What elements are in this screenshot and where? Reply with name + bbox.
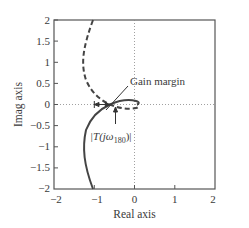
nyquist-chart: 2 1.5 1 0.5 0 −0.5 −1 −1.5 −2 −2 −1 0 1 … [0,0,249,228]
x-tick-label: 0 [132,193,138,205]
x-tick-label: −1 [91,193,103,205]
y-tick-label: −0.5 [30,119,50,131]
y-tick-label: −1.5 [30,161,50,173]
y-tick-label: 0.5 [36,77,50,89]
gain-margin-leader-line [106,86,128,110]
y-tick-label: 2 [45,14,51,26]
x-tick-label: 1 [172,193,178,205]
t-magnitude-arrow [114,107,118,124]
y-tick-label: 1 [45,56,51,68]
y-axis-title: Imag axis [12,81,25,127]
nyquist-curve-dashed [83,20,139,109]
x-axis-title: Real axis [113,208,156,220]
x-tick-label: −2 [50,193,62,205]
gain-margin-label: Gain margin [130,75,186,87]
t-magnitude-label: |T(jω180)| [90,130,132,145]
x-ticks [94,185,175,189]
gain-margin-span-arrow [94,101,110,108]
x-tick-label: 2 [210,193,216,205]
y-tick-label: 1.5 [36,35,50,47]
nyquist-curve-solid [84,100,139,189]
y-tick-label: −1 [38,140,50,152]
y-tick-label: −2 [38,182,50,194]
y-tick-label: 0 [45,98,51,110]
